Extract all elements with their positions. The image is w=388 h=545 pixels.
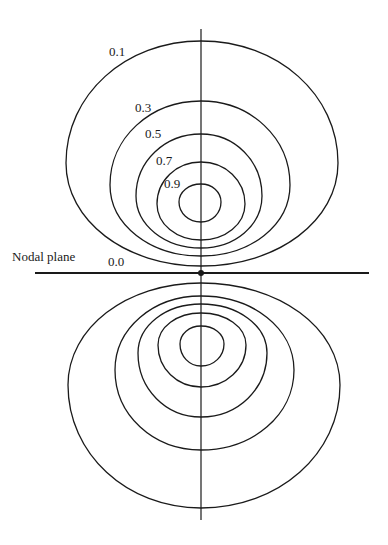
nucleus-dot <box>198 270 204 276</box>
orbital-contour-diagram: 0.1 0.3 0.5 0.7 0.9 Nodal plane 0.0 <box>0 0 388 545</box>
upper-contour-0-1 <box>66 41 338 266</box>
lower-contour-0-7 <box>158 313 246 387</box>
lower-contour-0-3 <box>115 296 294 450</box>
nodal-plane-label: Nodal plane <box>12 249 75 264</box>
lower-contour-0-9 <box>180 326 224 366</box>
upper-contour-0-9 <box>179 184 221 222</box>
contour-label-0-1: 0.1 <box>109 44 125 59</box>
contour-label-0-5: 0.5 <box>145 126 161 141</box>
lower-lobe-contours <box>68 283 340 508</box>
contour-label-0-3: 0.3 <box>135 100 151 115</box>
contour-label-0-0: 0.0 <box>108 254 124 269</box>
upper-contour-0-3 <box>110 101 290 256</box>
contour-label-0-7: 0.7 <box>156 153 173 168</box>
lower-contour-0-1 <box>68 283 340 508</box>
upper-lobe-contours <box>66 41 338 266</box>
lower-contour-0-5 <box>138 304 267 417</box>
contour-label-0-9: 0.9 <box>164 176 180 191</box>
